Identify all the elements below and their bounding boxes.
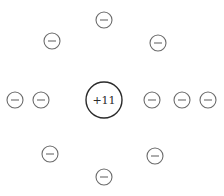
electron-lower-right — [147, 148, 163, 164]
electron-left-outer — [7, 92, 23, 108]
atom-diagram: +11 — [0, 0, 224, 196]
electron-top — [96, 12, 112, 28]
electron-bottom — [96, 169, 112, 185]
nucleus-charge-label: +11 — [92, 94, 115, 107]
nucleus: +11 — [86, 82, 122, 118]
electron-right-middle — [174, 92, 190, 108]
electron-upper-right — [150, 35, 166, 51]
electron-right-inner — [144, 92, 160, 108]
electron-lower-left — [42, 146, 58, 162]
electron-left-inner — [33, 92, 49, 108]
electron-right-outer — [200, 92, 216, 108]
electron-upper-left — [44, 33, 60, 49]
